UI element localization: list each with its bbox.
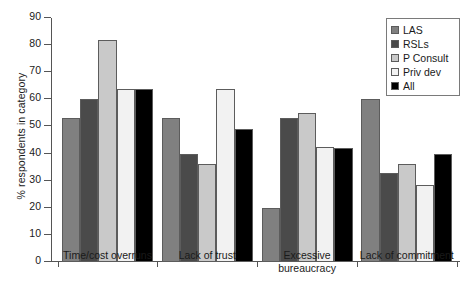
bar — [398, 164, 416, 262]
legend-swatch-icon — [391, 68, 399, 76]
y-axis-title: % respondents in category — [15, 36, 27, 236]
y-axis-tick: 20 — [44, 207, 51, 208]
y-axis-tick: 90 — [44, 17, 51, 18]
y-axis-tick-label: 50 — [29, 118, 41, 130]
y-axis-tick-label: 30 — [29, 173, 41, 185]
bar — [235, 129, 253, 262]
bar — [334, 148, 352, 262]
y-axis-tick-label: 80 — [29, 37, 41, 49]
y-axis-tick-label: 40 — [29, 146, 41, 158]
x-axis-tick — [457, 262, 458, 267]
bar — [80, 99, 98, 262]
legend-item: All — [391, 79, 459, 93]
bar — [162, 118, 180, 262]
y-axis-tick-label: 20 — [29, 200, 41, 212]
bar — [180, 154, 198, 262]
y-axis-tick-label: 70 — [29, 64, 41, 76]
legend-label: P Consult — [403, 52, 448, 64]
bar — [62, 118, 80, 262]
legend: LASRSLsP ConsultPriv devAll — [386, 18, 460, 96]
y-axis-tick: 60 — [44, 98, 51, 99]
legend-label: RSLs — [403, 38, 429, 50]
x-axis-tick — [157, 262, 158, 267]
legend-label: LAS — [403, 24, 423, 36]
bar — [280, 118, 298, 262]
y-axis-tick-label: 60 — [29, 91, 41, 103]
y-axis-tick: 50 — [44, 125, 51, 126]
y-axis-tick-label: 0 — [35, 254, 41, 266]
legend-item: P Consult — [391, 51, 459, 65]
legend-label: All — [403, 80, 415, 92]
y-axis-tick: 80 — [44, 44, 51, 45]
bar-chart: % respondents in category 01020304050607… — [0, 0, 467, 303]
bar — [361, 99, 379, 262]
legend-swatch-icon — [391, 54, 399, 62]
y-axis-line — [51, 18, 52, 262]
bar — [198, 164, 216, 262]
legend-item: RSLs — [391, 37, 459, 51]
x-axis-tick — [58, 262, 59, 267]
y-axis-tick-label: 90 — [29, 10, 41, 22]
bar — [98, 40, 116, 262]
bar — [434, 154, 452, 262]
legend-swatch-icon — [391, 40, 399, 48]
legend-swatch-icon — [391, 26, 399, 34]
bar — [135, 89, 153, 263]
y-axis-tick: 70 — [44, 71, 51, 72]
legend-item: Priv dev — [391, 65, 459, 79]
legend-item: LAS — [391, 23, 459, 37]
bar — [216, 89, 234, 263]
y-axis-tick: 40 — [44, 153, 51, 154]
bar — [117, 89, 135, 263]
legend-swatch-icon — [391, 82, 399, 90]
bar — [298, 113, 316, 262]
legend-label: Priv dev — [403, 66, 441, 78]
y-axis-tick: 10 — [44, 234, 51, 235]
bar — [316, 147, 334, 262]
y-axis-tick-label: 10 — [29, 227, 41, 239]
y-axis-tick: 30 — [44, 180, 51, 181]
x-axis-category-label: Lack of commitment — [347, 249, 467, 262]
